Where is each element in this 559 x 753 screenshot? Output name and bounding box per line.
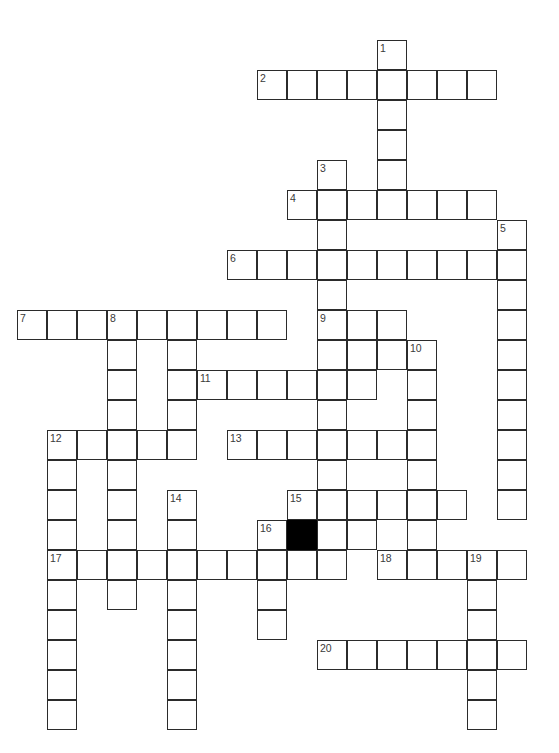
grid-cell[interactable] [77, 550, 107, 580]
grid-cell[interactable] [317, 520, 347, 550]
grid-cell[interactable] [107, 490, 137, 520]
grid-cell[interactable] [377, 160, 407, 190]
grid-cell[interactable] [167, 490, 197, 520]
grid-cell[interactable] [407, 70, 437, 100]
grid-cell[interactable] [407, 340, 437, 370]
grid-cell[interactable] [467, 670, 497, 700]
grid-cell[interactable] [497, 280, 527, 310]
grid-cell[interactable] [287, 250, 317, 280]
grid-cell[interactable] [167, 700, 197, 730]
grid-cell[interactable] [257, 430, 287, 460]
grid-cell[interactable] [167, 340, 197, 370]
grid-cell[interactable] [497, 430, 527, 460]
grid-cell[interactable] [467, 700, 497, 730]
grid-cell[interactable] [377, 550, 407, 580]
grid-cell[interactable] [437, 70, 467, 100]
grid-cell[interactable] [47, 460, 77, 490]
grid-cell[interactable] [107, 520, 137, 550]
grid-cell[interactable] [317, 280, 347, 310]
grid-cell[interactable] [377, 340, 407, 370]
grid-cell[interactable] [287, 490, 317, 520]
grid-cell[interactable] [497, 340, 527, 370]
grid-cell[interactable] [257, 310, 287, 340]
grid-cell[interactable] [347, 640, 377, 670]
grid-cell[interactable] [467, 70, 497, 100]
grid-cell[interactable] [347, 310, 377, 340]
grid-cell[interactable] [377, 250, 407, 280]
grid-cell[interactable] [347, 430, 377, 460]
grid-cell[interactable] [257, 250, 287, 280]
grid-cell[interactable] [407, 370, 437, 400]
grid-cell[interactable] [167, 640, 197, 670]
grid-cell[interactable] [17, 310, 47, 340]
grid-cell[interactable] [227, 430, 257, 460]
grid-cell[interactable] [197, 550, 227, 580]
grid-cell[interactable] [347, 250, 377, 280]
grid-cell[interactable] [47, 430, 77, 460]
grid-cell[interactable] [317, 340, 347, 370]
grid-cell[interactable] [407, 490, 437, 520]
grid-cell[interactable] [407, 250, 437, 280]
grid-cell[interactable] [317, 640, 347, 670]
grid-cell[interactable] [377, 130, 407, 160]
grid-cell[interactable] [347, 370, 377, 400]
grid-cell[interactable] [377, 490, 407, 520]
grid-cell[interactable] [497, 550, 527, 580]
grid-cell[interactable] [167, 580, 197, 610]
grid-cell[interactable] [497, 370, 527, 400]
grid-cell[interactable] [377, 310, 407, 340]
grid-cell[interactable] [257, 70, 287, 100]
grid-cell[interactable] [317, 400, 347, 430]
grid-cell[interactable] [317, 220, 347, 250]
grid-cell[interactable] [497, 400, 527, 430]
grid-cell[interactable] [407, 520, 437, 550]
grid-cell[interactable] [107, 370, 137, 400]
grid-cell[interactable] [227, 550, 257, 580]
grid-cell[interactable] [227, 250, 257, 280]
grid-cell[interactable] [137, 550, 167, 580]
grid-cell[interactable] [167, 550, 197, 580]
grid-cell[interactable] [257, 550, 287, 580]
grid-cell[interactable] [377, 640, 407, 670]
grid-cell[interactable] [377, 430, 407, 460]
grid-cell[interactable] [257, 520, 287, 550]
grid-cell[interactable] [167, 430, 197, 460]
grid-cell[interactable] [437, 190, 467, 220]
grid-cell[interactable] [467, 580, 497, 610]
grid-cell[interactable] [497, 310, 527, 340]
grid-cell[interactable] [377, 70, 407, 100]
grid-cell[interactable] [107, 460, 137, 490]
grid-cell[interactable] [317, 430, 347, 460]
grid-cell[interactable] [197, 310, 227, 340]
grid-cell[interactable] [437, 550, 467, 580]
grid-cell[interactable] [407, 190, 437, 220]
grid-cell[interactable] [47, 490, 77, 520]
grid-cell[interactable] [107, 400, 137, 430]
grid-cell[interactable] [467, 250, 497, 280]
grid-cell[interactable] [347, 190, 377, 220]
grid-cell[interactable] [497, 250, 527, 280]
grid-cell[interactable] [107, 550, 137, 580]
grid-cell[interactable] [407, 430, 437, 460]
grid-cell[interactable] [317, 250, 347, 280]
grid-cell[interactable] [407, 400, 437, 430]
grid-cell[interactable] [347, 520, 377, 550]
grid-cell[interactable] [317, 550, 347, 580]
grid-cell[interactable] [167, 370, 197, 400]
grid-cell[interactable] [257, 610, 287, 640]
grid-cell[interactable] [377, 190, 407, 220]
grid-cell[interactable] [287, 430, 317, 460]
grid-cell[interactable] [317, 460, 347, 490]
grid-cell[interactable] [317, 70, 347, 100]
grid-cell[interactable] [497, 460, 527, 490]
grid-cell[interactable] [257, 580, 287, 610]
grid-cell[interactable] [437, 250, 467, 280]
grid-cell[interactable] [317, 310, 347, 340]
grid-cell[interactable] [317, 190, 347, 220]
grid-cell[interactable] [47, 310, 77, 340]
grid-cell[interactable] [287, 550, 317, 580]
grid-cell[interactable] [227, 370, 257, 400]
grid-cell[interactable] [467, 640, 497, 670]
crossword-grid[interactable]: 1234567891011121314151617181920 [0, 0, 559, 753]
grid-cell[interactable] [167, 520, 197, 550]
